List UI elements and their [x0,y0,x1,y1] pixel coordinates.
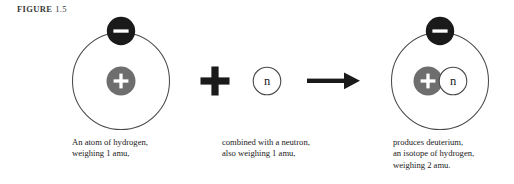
reaction-diagram: n n [0,0,514,134]
caption-line: also weighing 1 amu, [222,148,310,159]
free-neutron: n [253,67,281,95]
reaction-arrow [307,72,360,89]
caption-line: An atom of hydrogen, [72,137,148,148]
caption-line: weighing 1 amu, [72,148,148,159]
electron-minus-bar [113,29,128,32]
arrow-shaft [307,79,347,83]
neutron-label: n [264,74,271,88]
deuterium-neutron: n [439,67,467,95]
plus-operator-vertical [211,67,218,96]
hydrogen-atom [73,17,170,130]
proton-plus-vertical [426,74,429,89]
hydrogen-proton [107,67,136,96]
deuterium-electron [426,17,454,45]
caption-hydrogen: An atom of hydrogen, weighing 1 amu, [72,137,148,160]
deuterium-atom: n [392,17,489,130]
neutron-label: n [450,74,457,88]
electron-minus-bar [432,29,447,32]
hydrogen-electron [107,17,135,45]
caption-line: produces deuterium, [393,137,474,148]
caption-neutron: combined with a neutron, also weighing 1… [222,137,310,160]
caption-line: weighing 2 amu. [393,160,474,171]
arrow-head [344,72,360,89]
caption-line: combined with a neutron, [222,137,310,148]
caption-line: an isotope of hydrogen, [393,148,474,159]
proton-plus-vertical [119,74,122,89]
plus-operator [201,67,230,96]
figure-container: FIGURE1.5 n [0,0,514,184]
caption-deuterium: produces deuterium, an isotope of hydrog… [393,137,474,171]
deuterium-proton [414,67,443,96]
